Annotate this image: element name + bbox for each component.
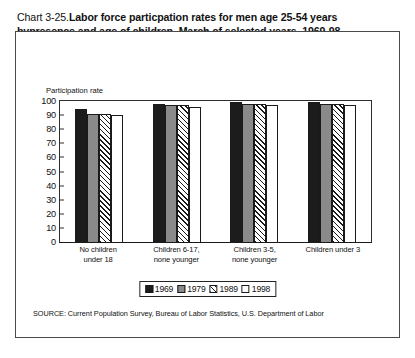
bar-1998-2 (189, 107, 201, 242)
bar-1998-1 (111, 115, 123, 242)
y-axis-title: Participation rate (46, 86, 103, 95)
x-axis-label-line: Children under 3 (294, 245, 372, 255)
bar-group (138, 101, 216, 242)
legend-label-1979: 1979 (187, 284, 205, 294)
bar-group (293, 101, 371, 242)
y-tick-label: 90 (46, 110, 56, 120)
legend-swatch-1969 (145, 285, 153, 293)
y-tick-label: 30 (46, 195, 56, 205)
bar-1969-2 (153, 104, 165, 242)
x-axis-label-line: No children (59, 245, 137, 255)
bar-group (60, 101, 138, 242)
x-axis-label-line: none younger (137, 255, 215, 265)
bar-1989-4 (332, 104, 344, 242)
x-axis-label-line: none younger (216, 255, 294, 265)
legend-item-1998: 1998 (241, 284, 271, 294)
x-axis-label-1: No childrenunder 18 (59, 245, 137, 264)
y-tick-label: 40 (46, 181, 56, 191)
legend-swatch-1989 (210, 285, 218, 293)
bar-groups (60, 101, 371, 242)
legend-item-1969: 1969 (144, 284, 174, 294)
bar-group (216, 101, 294, 242)
y-tick-label: 50 (46, 167, 56, 177)
bar-1989-2 (177, 105, 189, 242)
chart-number: Chart 3-25. (17, 11, 69, 23)
bar-1969-4 (308, 102, 320, 242)
y-tick-label: 0 (51, 237, 56, 247)
plot-area: 0102030405060708090100 (59, 100, 372, 243)
legend-item-1979: 1979 (176, 284, 206, 294)
y-tick-label: 20 (46, 209, 56, 219)
legend-label-1989: 1989 (220, 284, 238, 294)
bar-1998-3 (266, 105, 278, 242)
bar-1989-1 (99, 114, 111, 242)
x-axis-label-line: under 18 (59, 255, 137, 265)
legend: 1969197919891998 (139, 281, 276, 297)
bar-1998-4 (344, 105, 356, 242)
bar-1979-4 (320, 104, 332, 242)
y-tick-label: 10 (46, 223, 56, 233)
legend-label-1969: 1969 (155, 284, 173, 294)
y-tick-label: 80 (46, 124, 56, 134)
y-tick-label: 100 (41, 96, 56, 106)
bar-1989-3 (254, 104, 266, 242)
x-axis-label-line: Children 6-17, (137, 245, 215, 255)
bar-1969-3 (230, 102, 242, 242)
chart-page: Chart 3-25.Labor force particpation rate… (0, 0, 415, 358)
bar-1979-2 (165, 105, 177, 242)
legend-item-1989: 1989 (209, 284, 239, 294)
x-axis-label-line: Children 3-5, (216, 245, 294, 255)
x-axis-label-4: Children under 3 (294, 245, 372, 264)
bar-1979-3 (242, 104, 254, 242)
y-tick-label: 70 (46, 138, 56, 148)
bar-1979-1 (87, 114, 99, 242)
bar-1969-1 (75, 109, 87, 242)
legend-swatch-1979 (177, 285, 185, 293)
figure-frame: Participation rate 010203040506070809010… (15, 31, 400, 338)
x-axis-labels: No childrenunder 18Children 6-17,none yo… (59, 245, 372, 264)
source-note: SOURCE: Current Population Survey, Burea… (33, 309, 324, 318)
x-axis-label-2: Children 6-17,none younger (137, 245, 215, 264)
y-tick-label: 60 (46, 152, 56, 162)
legend-label-1998: 1998 (252, 284, 270, 294)
x-axis-label-3: Children 3-5,none younger (216, 245, 294, 264)
legend-swatch-1998 (242, 285, 250, 293)
